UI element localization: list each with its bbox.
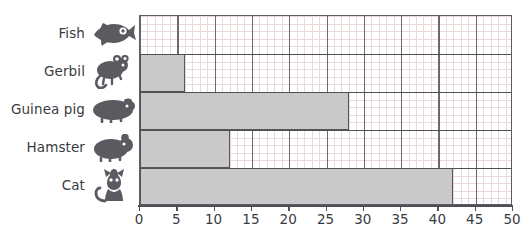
category-label-hamster: Hamster	[27, 141, 85, 155]
row-separator	[140, 54, 511, 55]
hamster-icon	[89, 130, 137, 166]
plot-area	[139, 15, 512, 205]
category-row-guinea-pig: Guinea pig	[0, 91, 139, 129]
x-tick-label: 45	[466, 213, 483, 227]
category-label-fish: Fish	[58, 27, 85, 41]
x-tick-label: 5	[172, 213, 181, 227]
x-tick-label: 30	[354, 213, 371, 227]
category-row-hamster: Hamster	[0, 129, 139, 167]
x-tick-label: 0	[135, 213, 144, 227]
category-row-gerbil: Gerbil	[0, 53, 139, 91]
gerbil-icon	[89, 54, 137, 90]
row-separator	[140, 168, 511, 169]
x-tick-label: 50	[503, 213, 520, 227]
cat-icon	[89, 168, 137, 204]
x-tick-label: 10	[205, 213, 222, 227]
row-separators	[140, 16, 511, 204]
horizontal-bar-chart: Fish Gerbil	[0, 0, 529, 247]
category-row-cat: Cat	[0, 167, 139, 205]
category-label-gerbil: Gerbil	[44, 65, 85, 79]
guinea-pig-icon	[89, 92, 137, 128]
category-label-guinea-pig: Guinea pig	[11, 103, 85, 117]
row-separator	[140, 92, 511, 93]
x-tick-label: 35	[392, 213, 409, 227]
category-label-cat: Cat	[62, 179, 85, 193]
x-tick-label: 40	[429, 213, 446, 227]
category-axis: Fish Gerbil	[0, 15, 139, 205]
row-separator	[140, 130, 511, 131]
fish-icon	[89, 16, 137, 52]
x-tick-label: 25	[317, 213, 334, 227]
x-axis: 05101520253035404550	[139, 205, 512, 206]
x-tick-label: 20	[280, 213, 297, 227]
category-row-fish: Fish	[0, 15, 139, 53]
x-tick-label: 15	[242, 213, 259, 227]
